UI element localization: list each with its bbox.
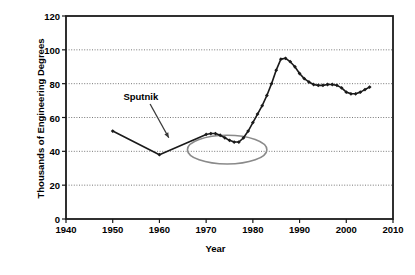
x-tick-label: 1990 [280, 224, 320, 235]
x-tick-label: 1940 [46, 224, 86, 235]
y-tick-label: 80 [30, 78, 60, 89]
x-tick-label: 1980 [233, 224, 273, 235]
x-axis-title-wrapper: Year [0, 243, 415, 254]
y-tick-label: 40 [30, 146, 60, 157]
y-axis-title-wrapper: Thousands of Engineering Degrees [0, 105, 1, 106]
sputnik-annotation-label: Sputnik [123, 91, 158, 102]
y-tick-label: 20 [30, 180, 60, 191]
x-axis-title: Year [205, 243, 225, 254]
grid-lines [66, 50, 393, 185]
x-tick-label: 2010 [373, 224, 413, 235]
y-tick-label: 120 [30, 11, 60, 22]
y-tick-label: 60 [30, 112, 60, 123]
y-tick-label: 0 [30, 214, 60, 225]
chart-figure: Thousands of Engineering Degrees 120 100… [0, 0, 415, 275]
axis-frame [66, 16, 393, 219]
series-markers [111, 56, 372, 156]
x-tick-label: 1960 [139, 224, 179, 235]
x-tick-label: 1950 [93, 224, 133, 235]
x-tick-label: 1970 [186, 224, 226, 235]
x-tick-label: 2000 [326, 224, 366, 235]
y-tick-label: 100 [30, 44, 60, 55]
sputnik-arrow [150, 104, 169, 138]
